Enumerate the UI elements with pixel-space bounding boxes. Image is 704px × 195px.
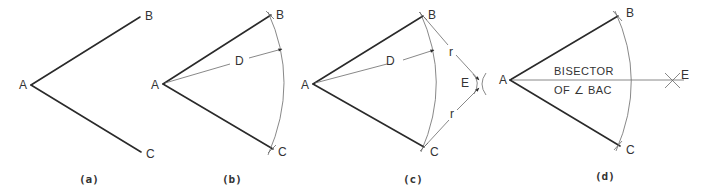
panel-c: A B C E D r r (c)	[301, 8, 486, 186]
radius-line-right	[249, 49, 282, 58]
label-c: C	[626, 143, 635, 157]
arc-e-lower	[482, 73, 486, 95]
ray-ac	[31, 85, 141, 152]
radius-line-right	[403, 50, 434, 60]
tick-b	[613, 11, 622, 21]
caption-b: (b)	[222, 173, 242, 186]
bisector-label-line2: OF ∠ BAC	[554, 84, 612, 96]
radius-line-left	[315, 64, 387, 83]
arc-d	[420, 12, 436, 152]
label-b: B	[276, 8, 284, 22]
arc-d	[615, 11, 631, 151]
label-a: A	[301, 78, 309, 92]
radius-label-d: D	[386, 54, 395, 68]
arc-d	[268, 12, 284, 155]
ray-ab	[163, 15, 271, 84]
radius-line-left	[165, 64, 230, 83]
radius-label-r-upper: r	[449, 45, 453, 59]
ray-ac	[313, 84, 424, 147]
label-a: A	[19, 78, 27, 92]
ray-ab	[31, 17, 140, 85]
label-b: B	[626, 6, 634, 20]
panel-b: A B C D (b)	[151, 8, 287, 186]
caption-c: (c)	[403, 173, 423, 186]
label-b: B	[145, 9, 153, 23]
bisector-label-line1: BISECTOR	[554, 65, 614, 77]
caption-a: (a)	[79, 173, 99, 186]
label-b: B	[428, 8, 436, 22]
label-a: A	[499, 73, 507, 87]
radius-label-d: D	[235, 54, 244, 68]
ray-ab	[313, 16, 423, 84]
panel-a: A B C (a)	[19, 9, 155, 186]
panel-d: A B C E BISECTOR OF ∠ BAC (d)	[499, 6, 689, 183]
ray-ac	[163, 84, 273, 149]
label-c: C	[146, 147, 155, 161]
label-c: C	[430, 145, 439, 159]
label-e: E	[681, 68, 689, 82]
caption-d: (d)	[595, 170, 615, 183]
label-a: A	[151, 78, 159, 92]
label-c: C	[278, 145, 287, 159]
angle-bisector-diagram: A B C (a) A B C D (b) A B	[0, 0, 704, 195]
label-e: E	[461, 76, 469, 90]
radius-label-r-lower: r	[450, 107, 454, 121]
